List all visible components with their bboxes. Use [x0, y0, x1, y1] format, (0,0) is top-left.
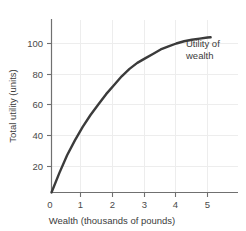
y-tick-label-100: 100 [27, 38, 43, 49]
annotation-line-2: wealth [185, 50, 213, 61]
x-tick-label-3: 3 [142, 199, 147, 210]
y-axis-title: Total utility (units) [7, 69, 18, 142]
y-tick-label-40: 40 [32, 130, 43, 141]
y-tick-label-20: 20 [32, 161, 43, 172]
x-axis-ticks [81, 193, 208, 198]
x-tick-label-5: 5 [205, 199, 210, 210]
x-axis-title: Wealth (thousands of pounds) [49, 215, 176, 226]
y-axis-ticks [47, 44, 52, 167]
x-tick-label-2: 2 [110, 199, 115, 210]
utility-of-wealth-chart: 20 40 60 80 100 0 1 2 3 4 5 Wealth (thou… [0, 0, 246, 231]
annotation-line-1: Utility of [186, 38, 220, 49]
y-tick-label-60: 60 [32, 99, 43, 110]
x-tick-label-1: 1 [78, 199, 83, 210]
x-tick-label-4: 4 [173, 199, 178, 210]
x-tick-label-0: 0 [47, 199, 52, 210]
y-tick-label-80: 80 [32, 69, 43, 80]
chart-canvas: 20 40 60 80 100 0 1 2 3 4 5 Wealth (thou… [0, 0, 246, 231]
